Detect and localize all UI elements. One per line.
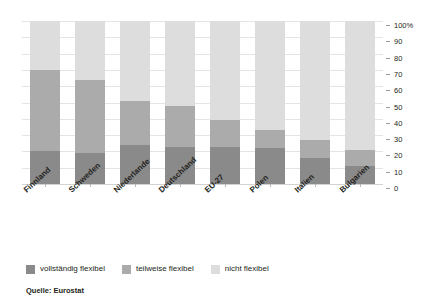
y-tick-label: 0: [386, 184, 426, 193]
x-tick-mark: [45, 184, 46, 187]
y-tick-label: 70: [386, 70, 426, 79]
bar-segment[interactable]: [345, 150, 375, 166]
x-tick-mark: [270, 184, 271, 187]
legend-label: nicht flexibel: [225, 264, 269, 274]
x-tick-slot: Niederlande: [112, 184, 156, 234]
bar-segment[interactable]: [165, 21, 195, 106]
chart-legend: vollständig flexibelteilweise flexibelni…: [26, 262, 286, 276]
y-tick-label: 50: [386, 103, 426, 112]
x-tick-mark: [180, 184, 181, 187]
bar-segment[interactable]: [210, 120, 240, 146]
y-tick-label: 100%: [386, 21, 426, 30]
bar-segment[interactable]: [345, 21, 375, 150]
bar-segment[interactable]: [30, 70, 60, 152]
x-tick-slot: Bulgarien: [338, 184, 382, 234]
legend-label: vollständig flexibel: [40, 264, 105, 274]
bar-group: [22, 21, 383, 184]
y-tick-label: 10: [386, 168, 426, 177]
y-tick-label: 40: [386, 119, 426, 128]
bar-segment[interactable]: [120, 101, 150, 145]
bar-segment[interactable]: [255, 130, 285, 148]
x-tick-slot: Finnland: [22, 184, 66, 234]
x-tick-slot: Italien: [293, 184, 337, 234]
x-tick-slot: Schweden: [67, 184, 111, 234]
bar-column[interactable]: [300, 21, 330, 184]
bar-column[interactable]: [345, 21, 375, 184]
x-tick-slot: EU-27: [203, 184, 247, 234]
bar-segment[interactable]: [255, 21, 285, 130]
y-tick-label: 90: [386, 37, 426, 46]
y-tick-label: 80: [386, 54, 426, 63]
y-tick-label: 60: [386, 86, 426, 95]
bar-segment[interactable]: [300, 21, 330, 140]
x-axis: FinnlandSchwedenNiederlandeDeutschlandEU…: [22, 184, 383, 234]
x-tick-slot: Deutschland: [157, 184, 201, 234]
legend-swatch-icon: [211, 265, 220, 274]
x-tick-mark: [90, 184, 91, 187]
plot-area: [22, 21, 383, 184]
legend-item[interactable]: vollständig flexibel: [26, 264, 105, 274]
bar-segment[interactable]: [75, 21, 105, 80]
chart-figure: 0102030405060708090100% FinnlandSchweden…: [0, 0, 431, 305]
bar-segment[interactable]: [75, 80, 105, 153]
legend-item[interactable]: nicht flexibel: [211, 264, 269, 274]
y-axis: 0102030405060708090100%: [386, 14, 430, 192]
bar-segment[interactable]: [30, 21, 60, 70]
x-tick-mark: [360, 184, 361, 187]
bar-segment[interactable]: [210, 21, 240, 120]
y-tick-label: 30: [386, 135, 426, 144]
bar-segment[interactable]: [165, 106, 195, 147]
legend-swatch-icon: [122, 265, 131, 274]
x-tick-mark: [225, 184, 226, 187]
bar-column[interactable]: [75, 21, 105, 184]
x-tick-mark: [315, 184, 316, 187]
bar-column[interactable]: [210, 21, 240, 184]
y-tick-label: 20: [386, 151, 426, 160]
legend-item[interactable]: teilweise flexibel: [122, 264, 194, 274]
legend-swatch-icon: [26, 265, 35, 274]
x-tick-mark: [135, 184, 136, 187]
legend-label: teilweise flexibel: [136, 264, 194, 274]
bar-segment[interactable]: [120, 21, 150, 101]
bar-segment[interactable]: [300, 140, 330, 158]
source-note: Quelle: Eurostat: [26, 286, 84, 296]
x-tick-slot: Polen: [248, 184, 292, 234]
bar-column[interactable]: [255, 21, 285, 184]
bar-column[interactable]: [30, 21, 60, 184]
